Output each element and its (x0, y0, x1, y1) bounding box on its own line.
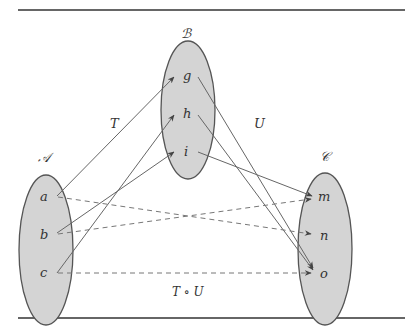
mapping-u-label: U (254, 116, 266, 131)
element-o: o (320, 266, 328, 281)
element-i: i (184, 144, 188, 159)
element-h: h (183, 106, 191, 121)
mapping-t-label: T (110, 116, 120, 131)
element-a: a (40, 189, 48, 204)
set-b-label: ℬ (181, 26, 192, 41)
mapping-t-arrows (57, 77, 174, 273)
element-n: n (320, 228, 328, 243)
element-g: g (183, 68, 191, 83)
element-b: b (40, 227, 48, 242)
element-c: c (40, 265, 48, 280)
function-composition-diagram: 𝒜 ℬ 𝒞 a b c g h i m n o T U T ∘ U (0, 0, 405, 331)
set-a-label: 𝒜 (38, 150, 54, 165)
mapping-tu-label: T ∘ U (172, 285, 205, 299)
element-m: m (318, 189, 330, 204)
mapping-tu-arrows (58, 197, 311, 273)
mapping-u-arrows (198, 77, 313, 270)
set-c-label: 𝒞 (320, 149, 333, 164)
